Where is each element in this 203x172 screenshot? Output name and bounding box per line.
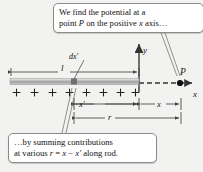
dimension-l — [11, 68, 139, 76]
callout-top-line2-pre: point — [59, 18, 79, 28]
charged-rod — [10, 79, 139, 85]
label-x-axis: x — [193, 89, 197, 99]
callout-top-line2: point P on the positive x axis… — [59, 18, 199, 29]
callout-top: We find the potential at a point P on th… — [53, 3, 203, 33]
callout-top-line2-mid: on the positive — [84, 18, 139, 28]
callout-bottom-line2-mid: = — [53, 148, 62, 158]
callout-bottom-line2-pre: at various — [14, 148, 50, 158]
charge-signs — [13, 89, 139, 96]
dx-prime-leader — [74, 60, 84, 79]
dx-prime-element — [71, 79, 77, 85]
label-rod-length: l — [61, 63, 64, 73]
label-y-axis: y — [143, 45, 147, 55]
figure-canvas: l dx′ y x P x′ x r We find the potential… — [0, 0, 203, 172]
label-r-distance: r — [108, 112, 111, 122]
top-callout-leader — [160, 30, 180, 76]
callout-top-line2-post: axis… — [143, 18, 168, 28]
label-point-p: P — [180, 67, 186, 77]
dimension-x — [141, 98, 181, 110]
callout-bottom-line2-mid2: − — [66, 148, 75, 158]
label-x-distance: x — [157, 99, 161, 109]
callout-bottom-line2: at various r = x − x′ along rod. — [14, 148, 152, 159]
callout-bottom-line2-post: along rod. — [81, 148, 118, 158]
label-x-prime: x′ — [79, 99, 85, 109]
dimension-r — [74, 112, 181, 124]
callout-top-line1: We find the potential at a — [59, 7, 199, 18]
callout-bottom-line1: …by summing contributions — [14, 137, 152, 148]
callout-bottom: …by summing contributions at various r =… — [8, 133, 157, 163]
label-dx-prime: dx′ — [69, 52, 78, 61]
point-P — [177, 80, 183, 86]
